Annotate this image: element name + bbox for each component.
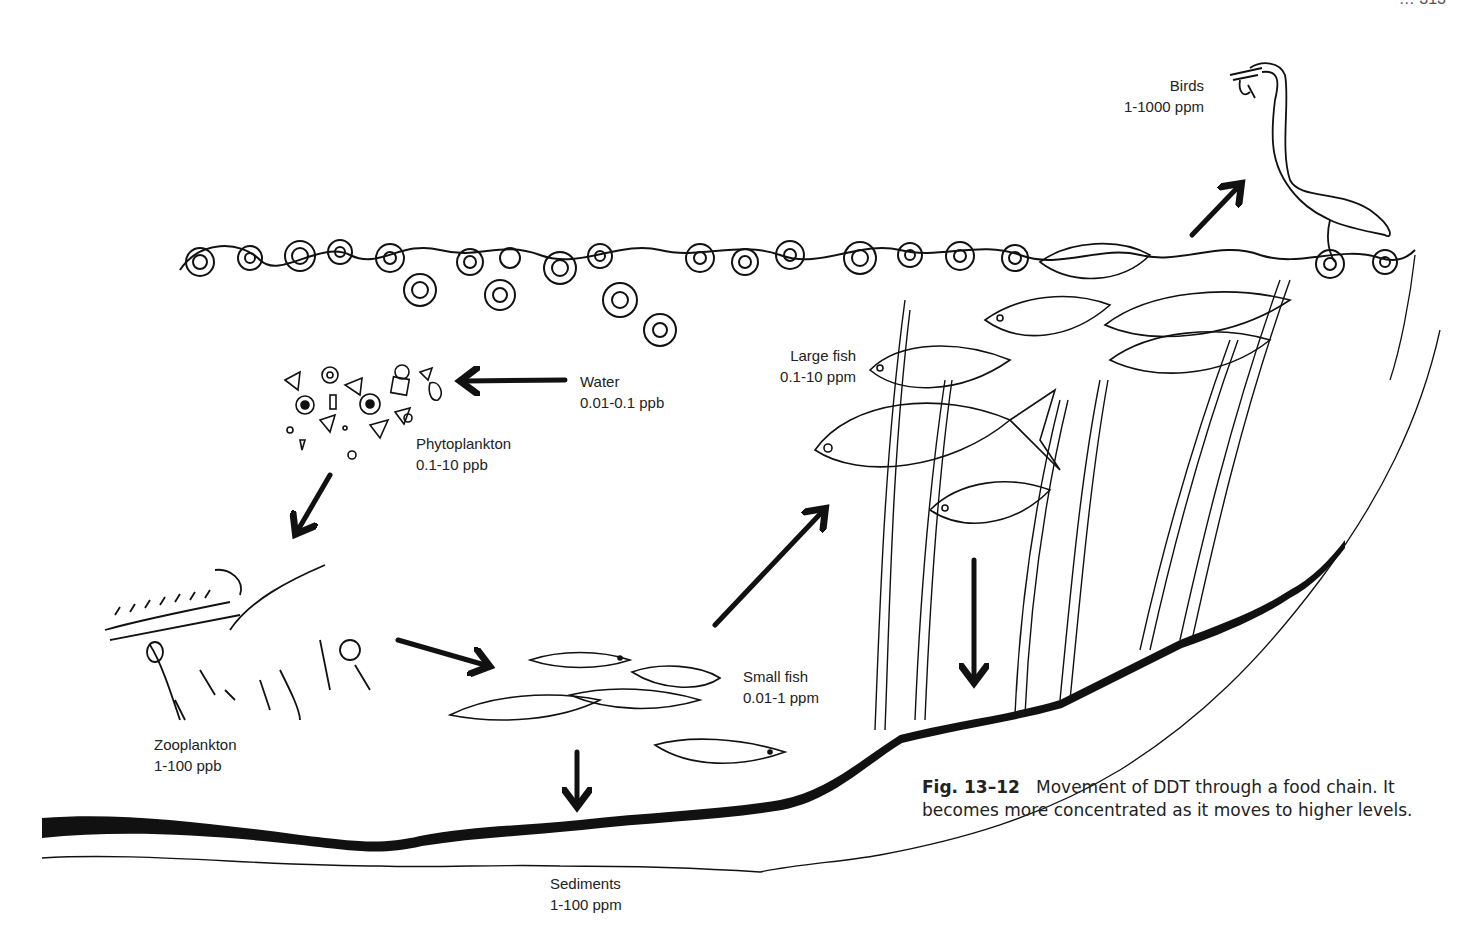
arrow-zooplankton-to-small-fish bbox=[398, 640, 485, 665]
label-birds: Birds 1-1000 ppm bbox=[1080, 75, 1204, 117]
small-fish-name: Small fish bbox=[743, 666, 819, 687]
seaweed-drawing bbox=[875, 280, 1290, 730]
flow-arrows bbox=[298, 187, 1238, 802]
arrow-small-fish-to-large-fish bbox=[715, 512, 822, 625]
label-zooplankton: Zooplankton 1-100 ppb bbox=[154, 734, 237, 776]
small-fish-value: 0.01-1 ppm bbox=[743, 687, 819, 708]
label-water: Water 0.01-0.1 ppb bbox=[580, 371, 664, 413]
arrow-phytoplankton-to-zooplankton bbox=[298, 475, 330, 530]
water-surface-waves bbox=[180, 240, 1415, 346]
label-small-fish: Small fish 0.01-1 ppm bbox=[743, 666, 819, 708]
label-large-fish: Large fish 0.1-10 ppm bbox=[730, 345, 856, 387]
arrow-water-to-phytoplankton bbox=[465, 380, 565, 381]
zooplankton-name: Zooplankton bbox=[154, 734, 237, 755]
phytoplankton-value: 0.1-10 ppb bbox=[416, 454, 511, 475]
water-value: 0.01-0.1 ppb bbox=[580, 392, 664, 413]
large-fish-name: Large fish bbox=[730, 345, 856, 366]
small-fish-drawing bbox=[450, 653, 785, 764]
sediments-value: 1-100 ppm bbox=[550, 894, 622, 915]
birds-value: 1-1000 ppm bbox=[1080, 96, 1204, 117]
arrow-large-fish-to-birds bbox=[1192, 187, 1238, 235]
water-name: Water bbox=[580, 371, 664, 392]
label-sediments: Sediments 1-100 ppm bbox=[550, 873, 622, 915]
bird-drawing bbox=[1230, 63, 1390, 262]
zooplankton-drawing bbox=[105, 565, 370, 720]
birds-name: Birds bbox=[1080, 75, 1204, 96]
sediments-name: Sediments bbox=[550, 873, 622, 894]
large-fish-value: 0.1-10 ppm bbox=[730, 366, 856, 387]
figure-caption: Fig. 13–12 Movement of DDT through a foo… bbox=[922, 776, 1422, 822]
label-phytoplankton: Phytoplankton 0.1-10 ppb bbox=[416, 433, 511, 475]
phytoplankton-name: Phytoplankton bbox=[416, 433, 511, 454]
zooplankton-value: 1-100 ppb bbox=[154, 755, 237, 776]
figure-number: Fig. 13–12 bbox=[922, 777, 1020, 797]
